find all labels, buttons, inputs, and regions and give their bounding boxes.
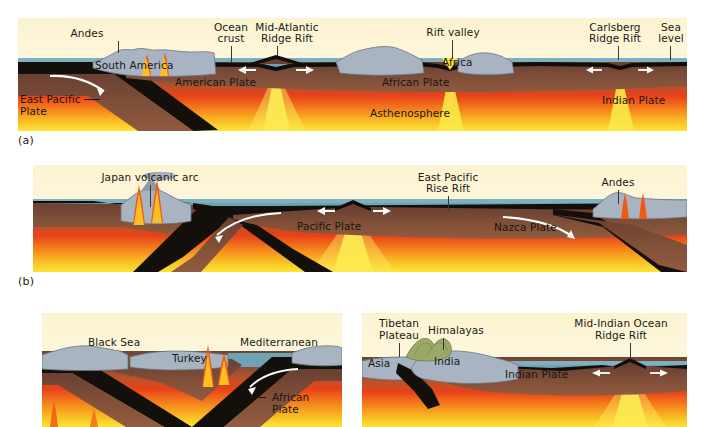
label-mid-atlantic-line2: Ridge Rift — [246, 33, 328, 45]
panel-letter-b: (b) — [18, 275, 34, 288]
leader-carlsberg — [618, 46, 619, 60]
leader-mid-indian — [630, 343, 631, 359]
label-africa: Africa — [442, 57, 473, 69]
label-american-plate: American Plate — [175, 77, 256, 89]
label-african-plate-a: African Plate — [382, 77, 450, 89]
label-asthenosphere: Asthenosphere — [370, 108, 450, 120]
label-indian-plate-a: Indian Plate — [602, 95, 665, 107]
label-pacific-plate: Pacific Plate — [297, 221, 361, 233]
leader-japan-arc — [150, 185, 151, 207]
label-japan-volcanic-arc: Japan volcanic arc — [95, 172, 205, 184]
label-nazca-plate: Nazca Plate — [494, 222, 557, 234]
label-mid-indian-line1: Mid-Indian Ocean — [562, 318, 680, 330]
leader-andes-b — [618, 190, 619, 204]
label-carlsberg-line2: Ridge Rift — [578, 33, 652, 45]
leader-east-pacific-rise — [448, 196, 449, 210]
label-andes-b: Andes — [590, 177, 646, 189]
label-east-pacific-plate-line1: East Pacific — [20, 94, 81, 106]
leader-african-plate-c — [250, 397, 266, 398]
label-mid-indian-line2: Ridge Rift — [562, 330, 680, 342]
leader-ocean-crust — [231, 46, 232, 62]
label-tibetan-plateau-line1: Tibetan — [371, 318, 427, 330]
label-sea-level-line2: level — [653, 33, 689, 45]
label-black-sea: Black Sea — [88, 337, 140, 349]
label-african-plate-c-line1: African — [272, 392, 309, 404]
panel-letter-a: (a) — [18, 134, 34, 147]
leader-tibetan-plateau — [399, 343, 400, 357]
label-east-pacific-plate-line2: Plate — [20, 106, 47, 118]
leader-himalayas — [443, 338, 444, 350]
label-south-america: South America — [95, 60, 173, 72]
label-african-plate-c-line2: Plate — [272, 404, 299, 416]
label-andes-a: Andes — [60, 28, 114, 40]
label-asia: Asia — [368, 358, 390, 370]
label-india: India — [434, 356, 460, 368]
label-east-pacific-rise-line2: Rise Rift — [407, 183, 489, 195]
label-rift-valley: Rift valley — [416, 27, 490, 39]
label-mediterranean: Mediterranean — [240, 337, 318, 349]
label-turkey: Turkey — [172, 353, 207, 365]
leader-sea-level — [670, 46, 671, 60]
label-tibetan-plateau-line2: Plateau — [371, 330, 427, 342]
leader-mid-atlantic — [277, 46, 278, 56]
leader-andes-a — [118, 41, 119, 53]
label-himalayas: Himalayas — [424, 325, 488, 337]
plate-tectonics-figure: Andes South America Ocean crust Mid-Atla… — [0, 0, 705, 427]
leader-east-pacific — [84, 99, 100, 100]
label-indian-plate-d: Indian Plate — [505, 369, 568, 381]
